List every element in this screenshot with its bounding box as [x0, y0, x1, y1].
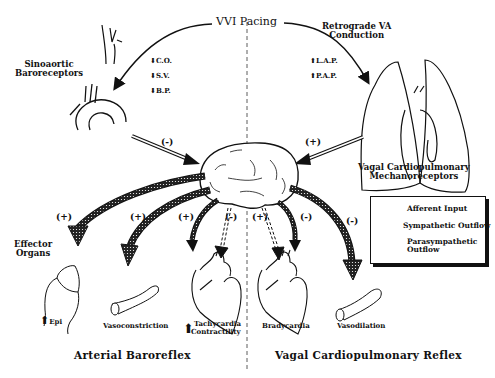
sign-bradycardia-symp: (-) [300, 213, 312, 223]
vagal-mechanoreceptors-label: Vagal Cardiopulmonary Mechanoreceptors [358, 163, 470, 182]
legend-box: Afferent Input Sympathetic Outflow Paras… [370, 196, 486, 264]
section-vagal-reflex: Vagal Cardiopulmonary Reflex [275, 350, 462, 362]
vessel-constricted-icon [111, 286, 159, 315]
brain-icon [200, 143, 298, 208]
sign-tachycardia-symp: (+) [178, 213, 194, 223]
bradycardia-label: Bradycardia [262, 322, 310, 330]
label-line: Outflow [407, 246, 477, 254]
sv-change: ⬇S.V. [150, 72, 170, 80]
label-line: Mechanoreceptors [358, 172, 470, 181]
sign-bradycardia-para: (+) [252, 213, 268, 223]
sign-adrenal: (+) [56, 213, 72, 223]
vessel-dilated-icon [336, 289, 381, 321]
vasoconstriction-label: Vasoconstriction [103, 322, 168, 330]
title-vvi-pacing: VVI Pacing [216, 16, 277, 28]
change-label: C.O. [156, 56, 172, 65]
legend-sympathetic-label: Sympathetic Outflow [403, 222, 490, 230]
legend-parasympathetic-label: Parasympathetic Outflow [407, 238, 477, 255]
label-line: Baroreceptors [15, 69, 83, 78]
sinoaortic-label: Sinoaortic Baroreceptors [15, 60, 83, 79]
diagram-canvas [0, 0, 495, 378]
retrograde-va-label: Retrograde VA Conduction [322, 22, 391, 41]
bp-change: ⬇B.P. [150, 87, 171, 95]
vasodilation-label: Vasodilation [337, 322, 385, 330]
label-line: Organs [14, 249, 52, 258]
legend-afferent-label: Afferent Input [407, 205, 467, 213]
sign-vasodilation: (-) [346, 217, 358, 227]
afferent-right-sign: (+) [305, 138, 321, 148]
section-arterial-baroreflex: Arterial Baroreflex [74, 350, 191, 362]
label-line: Conduction [322, 31, 391, 40]
co-change: ⬇C.O. [150, 57, 172, 65]
change-label: L.A.P. [316, 56, 338, 65]
carotid-artery-icon [102, 25, 122, 64]
sign-vasoconstriction: (+) [130, 213, 146, 223]
epi-label: ⬆Epi [40, 315, 62, 327]
afferent-left-sign: (-) [161, 138, 173, 148]
change-label: P.A.P. [316, 71, 337, 80]
lap-change: ⬆L.A.P. [310, 57, 338, 65]
label-line: Contractility [191, 328, 241, 336]
change-label: B.P. [156, 86, 171, 95]
sign-tachycardia-para: (-) [225, 213, 237, 223]
effector-label: Epi [49, 317, 62, 326]
change-label: S.V. [156, 71, 170, 80]
aortic-arch-icon [70, 84, 126, 130]
tachycardia-label: ⬆ Tachycardia Contractility [183, 320, 241, 335]
pap-change: ⬆P.A.P. [310, 72, 337, 80]
effector-organs-label: Effector Organs [14, 240, 52, 259]
